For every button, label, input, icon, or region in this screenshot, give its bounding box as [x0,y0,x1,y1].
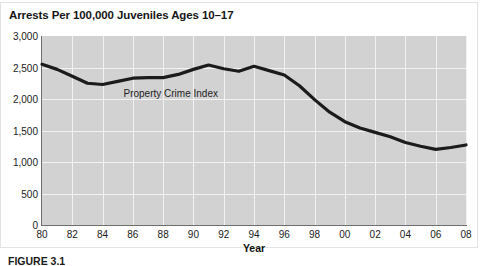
x-axis-tick-label: 94 [248,229,259,240]
vertical-gridline [466,36,467,225]
plot-area-wrapper: Property Crime Index [42,36,466,225]
figure-card: Arrests Per 100,000 Juveniles Ages 10–17… [0,2,478,248]
y-axis-tick-label: 3,000 [2,31,38,42]
y-axis-tick-label: 500 [2,188,38,199]
x-axis-tick-label: 02 [370,229,381,240]
x-axis-line [41,225,467,226]
x-axis-tick-label: 82 [67,229,78,240]
x-axis-tick-label: 04 [400,229,411,240]
x-axis-tick-label: 84 [97,229,108,240]
x-axis-tick-labels: 808284868890929496980002040608 [42,229,466,243]
y-axis-tick-label: 0 [2,220,38,231]
y-axis-tick-labels: 3,0002,5002,0001,5001,0005000 [1,36,38,225]
x-axis-tick-label: 98 [309,229,320,240]
x-axis-tick-label: 00 [339,229,350,240]
y-axis-tick-label: 1,500 [2,125,38,136]
x-axis-tick-label: 06 [430,229,441,240]
y-axis-tick-label: 2,500 [2,62,38,73]
series-annotation-label: Property Crime Index [123,87,217,98]
x-axis-tick-label: 92 [218,229,229,240]
y-axis-tick-label: 2,000 [2,94,38,105]
x-axis-tick-label: 08 [460,229,471,240]
chart-title: Arrests Per 100,000 Juveniles Ages 10–17 [9,9,233,21]
y-axis-tick-label: 1,000 [2,157,38,168]
x-axis-title: Year [42,242,466,254]
x-axis-tick-label: 80 [36,229,47,240]
x-axis-tick-label: 90 [188,229,199,240]
x-axis-tick-label: 86 [127,229,138,240]
property-crime-index-line [42,36,466,225]
figure-caption: FIGURE 3.1 [8,255,65,266]
x-axis-tick-label: 96 [279,229,290,240]
x-axis-tick-label: 88 [158,229,169,240]
